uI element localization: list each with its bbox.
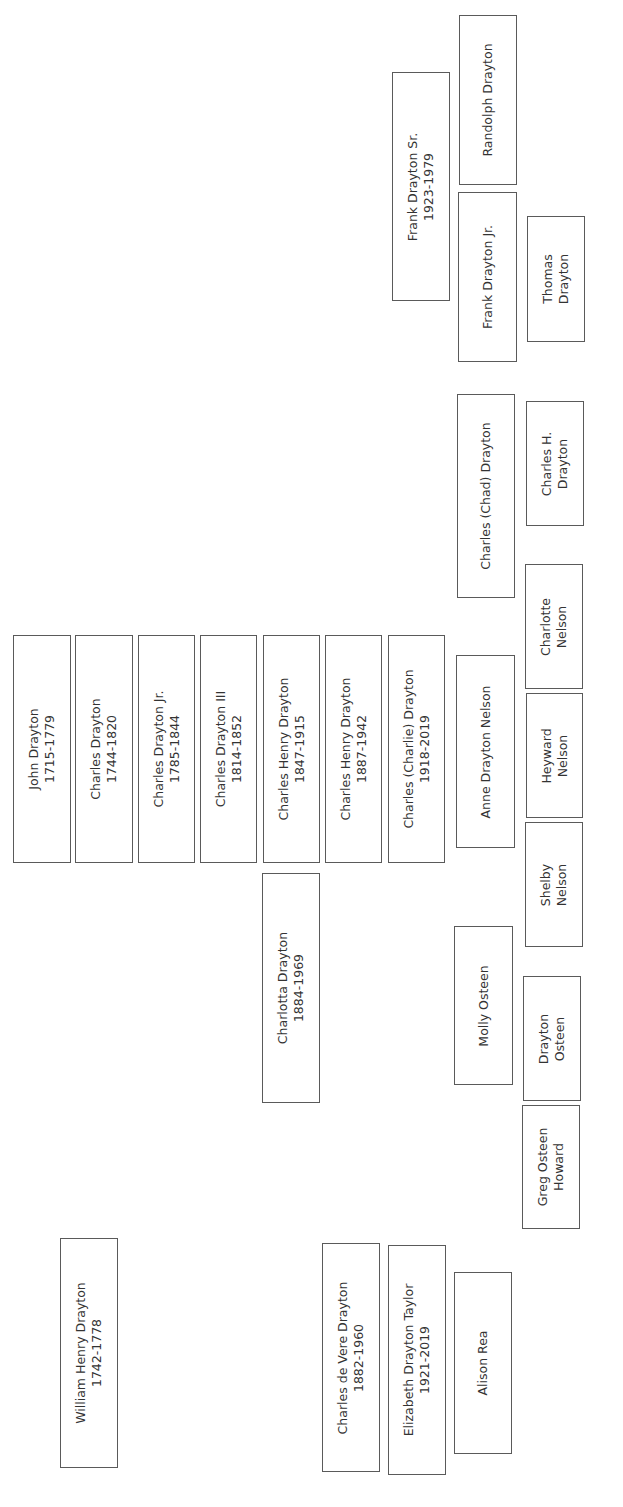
- person-box-william: William Henry Drayton1742-1778: [60, 1238, 118, 1468]
- person-label: Molly Osteen: [476, 965, 492, 1046]
- person-name-line2: Drayton: [556, 254, 572, 304]
- person-name: Heyward: [539, 728, 555, 783]
- person-name-line2: Drayton: [555, 431, 571, 495]
- person-box-chad: Charles (Chad) Drayton: [457, 394, 515, 598]
- person-box-john: John Drayton1715-1779: [13, 635, 71, 863]
- person-name: John Drayton: [26, 708, 42, 789]
- person-years: 1923-1979: [421, 132, 437, 240]
- person-box-frank-sr: Frank Drayton Sr.1923-1979: [392, 72, 450, 301]
- person-label: DraytonOsteen: [536, 1013, 568, 1063]
- person-label: Frank Drayton Jr.: [480, 225, 496, 329]
- person-name: Elizabeth Drayton Taylor: [401, 1284, 417, 1437]
- person-name: Charlotte: [538, 597, 554, 655]
- person-label: Randolph Drayton: [480, 43, 496, 156]
- person-label: Frank Drayton Sr.1923-1979: [405, 132, 437, 240]
- person-label: Charlotta Drayton1884-1969: [275, 932, 307, 1044]
- person-years: 1715-1779: [42, 708, 58, 789]
- person-name-line2: Osteen: [552, 1013, 568, 1063]
- person-name: Charles Drayton: [88, 698, 104, 799]
- person-name: Charles (Chad) Drayton: [478, 422, 494, 569]
- person-box-charles-iii: Charles Drayton III1814-1852: [200, 635, 257, 863]
- person-box-molly: Molly Osteen: [454, 926, 513, 1085]
- person-name: Charlotta Drayton: [275, 932, 291, 1044]
- person-label: Charles H.Drayton: [539, 431, 571, 495]
- person-box-charlotta: Charlotta Drayton1884-1969: [262, 873, 320, 1103]
- person-name: Frank Drayton Jr.: [480, 225, 496, 329]
- person-box-greg: Greg OsteenHoward: [522, 1105, 580, 1229]
- person-box-anne: Anne Drayton Nelson: [456, 655, 515, 848]
- person-box-charles-de-vere: Charles de Vere Drayton1882-1960: [322, 1243, 380, 1472]
- person-years: 1921-2019: [417, 1284, 433, 1437]
- person-years: 1847-1915: [292, 678, 308, 821]
- person-name-line2: Nelson: [554, 863, 570, 906]
- person-label: Charles (Chad) Drayton: [478, 422, 494, 569]
- person-box-drayton-osteen: DraytonOsteen: [523, 976, 581, 1101]
- person-years: 1884-1969: [291, 932, 307, 1044]
- person-box-thomas: ThomasDrayton: [527, 216, 585, 342]
- person-label: Alison Rea: [475, 1330, 491, 1395]
- person-box-charles-jr: Charles Drayton Jr.1785-1844: [138, 635, 195, 863]
- person-name: Anne Drayton Nelson: [478, 685, 494, 818]
- person-box-charlotte-nelson: CharlotteNelson: [525, 564, 583, 689]
- person-years: 1744-1820: [104, 698, 120, 799]
- person-name: Molly Osteen: [476, 965, 492, 1046]
- person-label: Elizabeth Drayton Taylor1921-2019: [401, 1284, 433, 1437]
- person-label: HeywardNelson: [539, 728, 571, 783]
- person-label: Charles Drayton1744-1820: [88, 698, 120, 799]
- person-name: Thomas: [540, 254, 556, 304]
- person-name: Greg Osteen: [535, 1128, 551, 1207]
- person-name: Charles Henry Drayton: [276, 678, 292, 821]
- person-box-alison: Alison Rea: [454, 1272, 512, 1454]
- person-label: Charles Drayton III1814-1852: [213, 691, 245, 807]
- person-name: Charles Drayton III: [213, 691, 229, 807]
- person-box-heyward: HeywardNelson: [526, 693, 583, 818]
- person-box-randolph: Randolph Drayton: [459, 15, 517, 185]
- person-label: Charles Henry Drayton1847-1915: [276, 678, 308, 821]
- person-name-line2: Nelson: [554, 597, 570, 655]
- person-label: John Drayton1715-1779: [26, 708, 58, 789]
- person-box-charlie: Charles (Charlie) Drayton1918-2019: [388, 635, 445, 863]
- person-name: Charles Drayton Jr.: [151, 690, 167, 807]
- person-years: 1918-2019: [417, 669, 433, 828]
- person-label: Anne Drayton Nelson: [478, 685, 494, 818]
- person-years: 1785-1844: [167, 690, 183, 807]
- person-name: Frank Drayton Sr.: [405, 132, 421, 240]
- person-name: Alison Rea: [475, 1330, 491, 1395]
- person-label: Greg OsteenHoward: [535, 1128, 567, 1207]
- person-name: Charles Henry Drayton: [338, 678, 354, 821]
- person-label: Charles Drayton Jr.1785-1844: [151, 690, 183, 807]
- person-box-charles-h: Charles H.Drayton: [526, 401, 584, 526]
- person-box-charles-1744: Charles Drayton1744-1820: [75, 635, 133, 863]
- person-years: 1814-1852: [229, 691, 245, 807]
- person-label: CharlotteNelson: [538, 597, 570, 655]
- person-name-line2: Howard: [551, 1128, 567, 1207]
- person-years: 1882-1960: [351, 1281, 367, 1434]
- person-years: 1742-1778: [89, 1282, 105, 1424]
- person-box-frank-jr: Frank Drayton Jr.: [458, 192, 517, 362]
- person-name: Drayton: [536, 1013, 552, 1063]
- person-label: Charles (Charlie) Drayton1918-2019: [401, 669, 433, 828]
- person-box-charles-henry-1887: Charles Henry Drayton1887-1942: [325, 635, 382, 863]
- person-label: ShelbyNelson: [538, 863, 570, 906]
- person-years: 1887-1942: [354, 678, 370, 821]
- person-label: Charles Henry Drayton1887-1942: [338, 678, 370, 821]
- person-name: Charles de Vere Drayton: [335, 1281, 351, 1434]
- person-box-elizabeth: Elizabeth Drayton Taylor1921-2019: [388, 1245, 446, 1475]
- person-label: William Henry Drayton1742-1778: [73, 1282, 105, 1424]
- person-name: Charles (Charlie) Drayton: [401, 669, 417, 828]
- person-box-shelby: ShelbyNelson: [525, 822, 583, 947]
- person-name: William Henry Drayton: [73, 1282, 89, 1424]
- person-box-charles-henry-1847: Charles Henry Drayton1847-1915: [263, 635, 320, 863]
- person-name: Shelby: [538, 863, 554, 906]
- person-label: ThomasDrayton: [540, 254, 572, 304]
- person-name: Randolph Drayton: [480, 43, 496, 156]
- person-name: Charles H.: [539, 431, 555, 495]
- person-name-line2: Nelson: [555, 728, 571, 783]
- person-label: Charles de Vere Drayton1882-1960: [335, 1281, 367, 1434]
